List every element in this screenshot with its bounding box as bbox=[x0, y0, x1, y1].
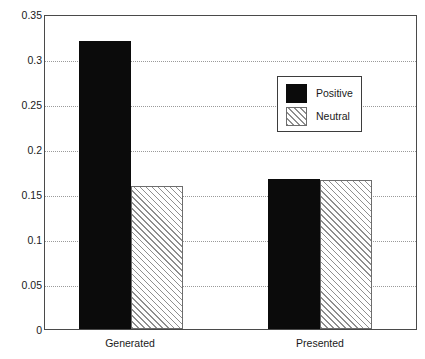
y-tick-label: 0.15 bbox=[2, 190, 42, 201]
y-tick-label: 0.25 bbox=[2, 100, 42, 111]
y-tick-label: 0.3 bbox=[2, 55, 42, 66]
y-tick-label: 0.35 bbox=[2, 10, 42, 21]
legend-swatch-positive-icon bbox=[286, 84, 307, 103]
y-tick-label: 0.1 bbox=[2, 235, 42, 246]
chart-legend: Positive Neutral bbox=[277, 76, 362, 132]
bar-generated-positive bbox=[79, 41, 131, 329]
legend-swatch-neutral-icon bbox=[286, 107, 307, 126]
y-tick-label: 0 bbox=[2, 325, 42, 336]
bar-presented-neutral bbox=[320, 180, 372, 329]
legend-entry-positive: Positive bbox=[286, 83, 353, 103]
bars-layer bbox=[45, 16, 416, 329]
bar-presented-positive bbox=[268, 179, 320, 329]
bar-generated-neutral bbox=[131, 186, 183, 329]
plot-area bbox=[44, 15, 417, 330]
bar-chart: 0 0.05 0.1 0.15 0.2 0.25 0.3 0.35 bbox=[0, 0, 425, 359]
legend-entry-neutral: Neutral bbox=[286, 106, 350, 126]
x-tick-label-presented: Presented bbox=[296, 338, 344, 349]
legend-label-positive: Positive bbox=[316, 88, 353, 99]
x-tick-label-generated: Generated bbox=[105, 338, 155, 349]
legend-label-neutral: Neutral bbox=[316, 111, 350, 122]
y-tick-label: 0.05 bbox=[2, 280, 42, 291]
y-tick-label: 0.2 bbox=[2, 145, 42, 156]
